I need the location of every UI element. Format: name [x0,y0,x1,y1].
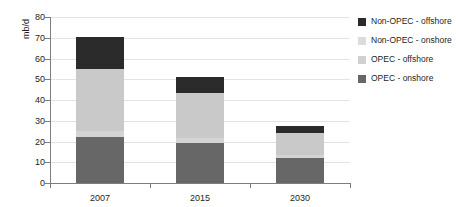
plot-area: 01020304050607080200720152030 [50,17,350,183]
x-axis-tick [250,183,251,188]
y-axis-label: 50 [19,75,45,84]
bar-stack[interactable] [276,17,324,183]
bar-segment[interactable] [276,155,324,158]
legend-label: Non-OPEC - onshore [371,36,452,45]
y-axis-label: 0 [19,179,45,188]
y-axis-label: 10 [19,158,45,167]
legend-label: OPEC - offshore [371,55,433,64]
legend-item: Non-OPEC - onshore [358,31,454,50]
legend-item: Non-OPEC - offshore [358,12,454,31]
bar-segment[interactable] [276,133,324,155]
y-axis-label: 60 [19,55,45,64]
legend-swatch-icon [358,56,366,64]
y-axis-tick [45,59,50,60]
bar-segment[interactable] [276,126,324,133]
bar-stack[interactable] [176,17,224,183]
bar-segment[interactable] [76,137,124,183]
y-axis-title: mb/d [21,0,31,59]
x-axis-label: 2015 [165,193,235,203]
y-axis-tick [45,100,50,101]
bar-segment[interactable] [176,77,224,93]
x-axis-line [50,183,350,184]
legend-swatch-icon [358,37,366,45]
y-axis-label: 80 [19,13,45,22]
x-axis-tick [50,183,51,188]
legend-item: OPEC - onshore [358,69,454,88]
x-axis-tick [150,183,151,188]
y-axis-label: 70 [19,34,45,43]
y-axis-tick [45,162,50,163]
x-axis-tick [350,183,351,188]
bar-segment[interactable] [176,143,224,183]
y-axis-tick [45,121,50,122]
legend-item: OPEC - offshore [358,50,454,69]
legend-label: Non-OPEC - offshore [371,17,452,26]
chart-legend: Non-OPEC - offshore Non-OPEC - onshore O… [358,12,454,88]
bar-segment[interactable] [176,138,224,142]
x-axis-label: 2030 [265,193,335,203]
y-axis-label: 40 [19,96,45,105]
legend-label: OPEC - onshore [371,74,433,83]
legend-swatch-icon [358,18,366,26]
y-axis-tick [45,17,50,18]
bar-segment[interactable] [176,93,224,139]
y-axis-tick [45,38,50,39]
bar-stack[interactable] [76,17,124,183]
bar-segment[interactable] [76,131,124,137]
chart-container: mb/d 01020304050607080200720152030 Non-O… [0,0,456,207]
x-axis-label: 2007 [65,193,135,203]
y-axis-label: 20 [19,138,45,147]
legend-swatch-icon [358,75,366,83]
bar-segment[interactable] [76,69,124,131]
bar-segment[interactable] [276,158,324,183]
y-axis-tick [45,142,50,143]
y-axis-label: 30 [19,117,45,126]
y-axis-tick [45,79,50,80]
bar-segment[interactable] [76,37,124,69]
